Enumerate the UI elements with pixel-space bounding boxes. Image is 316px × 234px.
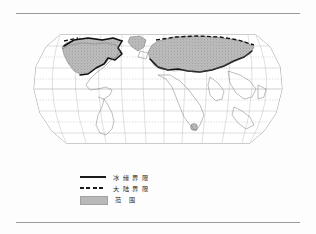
bottom-horizontal-rule bbox=[16, 222, 300, 223]
world-map bbox=[18, 27, 298, 151]
map-legend: 冰 缘 界 限 大 陆 界 限 范 围 bbox=[80, 173, 190, 206]
kilimanjaro-glacier-marker bbox=[191, 124, 198, 131]
legend-label-continental-limit: 大 陆 界 限 bbox=[113, 184, 149, 193]
legend-item-extent-area: 范 围 bbox=[80, 195, 190, 204]
dashed-line-symbol-icon bbox=[80, 184, 106, 193]
legend-label-ice-margin: 冰 缘 界 限 bbox=[113, 173, 149, 182]
legend-item-ice-margin: 冰 缘 界 限 bbox=[80, 173, 190, 182]
top-horizontal-rule bbox=[16, 13, 300, 14]
stipple-fill-symbol-icon bbox=[80, 196, 108, 205]
legend-item-continental-limit: 大 陆 界 限 bbox=[80, 184, 190, 193]
world-map-svg bbox=[18, 27, 298, 151]
solid-line-symbol-icon bbox=[80, 173, 106, 182]
legend-label-extent-area: 范 围 bbox=[115, 195, 139, 204]
page-canvas: 冰 缘 界 限 大 陆 界 限 范 围 bbox=[0, 0, 316, 234]
figure-container: 冰 缘 界 限 大 陆 界 限 范 围 bbox=[18, 27, 298, 213]
